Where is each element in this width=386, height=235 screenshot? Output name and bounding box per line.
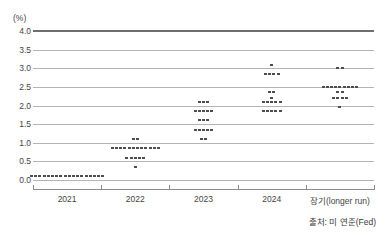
dot-marker (338, 106, 341, 108)
dot-marker (136, 147, 139, 149)
dot-marker (119, 147, 122, 149)
dot-marker (266, 110, 269, 112)
dot-marker (55, 175, 58, 177)
dot-marker (277, 73, 280, 75)
dot-marker (206, 119, 209, 121)
gridline-3.0 (33, 68, 374, 69)
y-tick-label-3.5: 3.5 (5, 45, 31, 55)
dot-marker (341, 91, 344, 93)
x-axis-line (33, 189, 374, 190)
dot-marker (330, 86, 333, 88)
dot-marker (115, 147, 118, 149)
y-tick-label-2.0: 2.0 (5, 101, 31, 111)
y-tick-label-1.5: 1.5 (5, 119, 31, 129)
source-note: 출처: 미 연준(Fed) (309, 215, 376, 227)
dot-marker (68, 175, 71, 177)
y-tick-label-3.0: 3.0 (5, 63, 31, 73)
dot-marker (336, 91, 339, 93)
x-axis-label-2: 2022 (126, 194, 145, 204)
dot-marker (47, 175, 50, 177)
dot-marker (272, 73, 275, 75)
dot-marker (76, 175, 79, 177)
dot-marker (198, 110, 201, 112)
dot-marker (326, 86, 329, 88)
dot-marker (130, 157, 133, 159)
dot-marker (194, 110, 197, 112)
dot-marker (140, 147, 143, 149)
dot-marker (270, 64, 273, 66)
x-axis-tick (101, 185, 102, 190)
dot-marker (351, 86, 354, 88)
gridline-2.0 (33, 106, 374, 107)
x-axis-label-group: 2021202220232024장기(longer run) (33, 194, 374, 208)
dot-marker (85, 175, 88, 177)
dot-marker (157, 147, 160, 149)
dot-marker (264, 73, 267, 75)
dot-marker (274, 110, 277, 112)
dot-marker (149, 147, 152, 149)
y-tick-label-4.0: 4.0 (5, 26, 31, 36)
dot-marker (38, 175, 41, 177)
dot-marker (279, 101, 282, 103)
dot-marker (270, 110, 273, 112)
dot-marker (93, 175, 96, 177)
dot-marker (72, 175, 75, 177)
x-axis-label-1: 2021 (58, 194, 77, 204)
dot-marker (153, 147, 156, 149)
gridline-1.5 (33, 124, 374, 125)
dot-marker (202, 119, 205, 121)
y-tick-label-0.5: 0.5 (5, 156, 31, 166)
dot-marker (34, 175, 37, 177)
dot-marker (268, 91, 271, 93)
dot-marker (134, 157, 137, 159)
y-tick-label-2.5: 2.5 (5, 82, 31, 92)
y-axis-tick-labels: 4.03.53.02.52.01.51.00.50.0 (0, 31, 31, 180)
dot-marker (206, 129, 209, 131)
x-axis-tick (33, 185, 34, 190)
dot-marker (210, 129, 213, 131)
dot-marker (332, 97, 335, 99)
dot-marker (123, 147, 126, 149)
dot-marker (210, 110, 213, 112)
x-axis-label-4: 2024 (262, 194, 281, 204)
dot-marker (262, 101, 265, 103)
dot-marker (43, 175, 46, 177)
dot-marker (200, 138, 203, 140)
dot-marker (204, 138, 207, 140)
x-axis-tick (306, 185, 307, 190)
dot-marker (270, 101, 273, 103)
dot-marker (144, 147, 147, 149)
gridline-4.0 (33, 30, 374, 32)
y-tick-label-1.0: 1.0 (5, 138, 31, 148)
dot-marker (136, 138, 139, 140)
dot-marker (101, 175, 104, 177)
dot-marker (345, 97, 348, 99)
dot-marker (272, 91, 275, 93)
dot-marker (341, 67, 344, 69)
dot-marker (194, 129, 197, 131)
dot-marker (128, 147, 131, 149)
dot-marker (138, 157, 141, 159)
dot-marker (198, 101, 201, 103)
dot-marker (198, 129, 201, 131)
dot-marker (270, 97, 273, 99)
dot-marker (341, 97, 344, 99)
dot-marker (134, 166, 137, 168)
dot-marker (355, 86, 358, 88)
gridline-0.5 (33, 161, 374, 162)
dot-marker (142, 157, 145, 159)
dot-marker (89, 175, 92, 177)
dot-marker (59, 175, 62, 177)
dot-marker (336, 97, 339, 99)
dot-marker (336, 67, 339, 69)
x-axis-tick (238, 185, 239, 190)
dot-marker (80, 175, 83, 177)
dot-marker (132, 138, 135, 140)
x-axis-label-5: 장기(longer run) (310, 194, 370, 206)
dot-marker (322, 86, 325, 88)
dot-marker (97, 175, 100, 177)
dot-marker (64, 175, 67, 177)
dot-marker (206, 110, 209, 112)
dot-marker (202, 129, 205, 131)
x-axis-tick (169, 185, 170, 190)
